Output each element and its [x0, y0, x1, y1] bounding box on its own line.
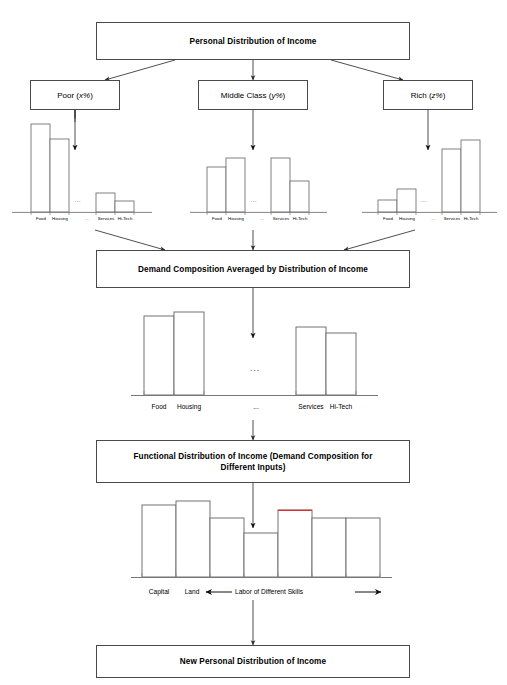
box-new-personal-distribution[interactable]: New Personal Distribution of Income — [96, 645, 410, 678]
averaged-tick-ellipsis: ... — [236, 403, 276, 411]
functional-line-2: Different Inputs) — [221, 463, 286, 472]
box-middle-class[interactable]: Middle Class (y%) — [198, 80, 308, 110]
box-label-bottom: New Personal Distribution of Income — [174, 656, 332, 667]
connector-group-to-chart — [47, 110, 75, 119]
rich-tick-hitech: Hi-Tech — [451, 216, 491, 221]
functional-line-1: Functional Distribution of Income (Deman… — [133, 452, 372, 461]
averaged-tick-housing: Housing — [169, 403, 209, 411]
rich-chart-graphic — [362, 140, 497, 215]
box-personal-distribution-of-income[interactable]: Personal Distribution of Income — [96, 22, 410, 60]
middle-tick-hitech: Hi-Tech — [280, 216, 320, 221]
box-label-rich: Rich (z%) — [407, 90, 450, 101]
averaged-tick-hitech: Hi-Tech — [321, 403, 361, 411]
box-label: Personal Distribution of Income — [184, 36, 323, 47]
connector-top-to-groups — [105, 60, 403, 80]
poor-series-break-ellipsis: ... — [75, 198, 81, 203]
rich-share: z% — [432, 91, 443, 100]
poor-chart-graphic — [12, 124, 152, 215]
box-label-functional: Functional Distribution of Income (Deman… — [127, 451, 378, 473]
box-rich[interactable]: Rich (z%) — [383, 80, 473, 110]
middle-class-share: y% — [271, 91, 282, 100]
box-poor[interactable]: Poor (x%) — [30, 80, 120, 110]
box-functional-distribution[interactable]: Functional Distribution of Income (Deman… — [96, 440, 410, 483]
averaged-chart-graphic — [131, 312, 378, 396]
connector-charts-to-demand — [95, 230, 415, 250]
rich-series-break-ellipsis: ... — [421, 198, 427, 203]
poor-name: Poor — [57, 91, 74, 100]
box-label-middle-class: Middle Class (y%) — [217, 90, 289, 101]
diagram-canvas: Personal Distribution of Income Poor (x%… — [0, 0, 507, 685]
functional-tick-land: Land — [172, 588, 212, 596]
box-demand-composition-averaged[interactable]: Demand Composition Averaged by Distribut… — [96, 250, 410, 288]
functional-chart-graphic — [131, 501, 392, 592]
middle-class-chart-graphic — [190, 158, 327, 215]
averaged-series-break-ellipsis: ... — [250, 365, 260, 373]
middle-series-break-ellipsis: ... — [251, 198, 257, 203]
functional-xlabel-labor: Labor of Different Skills — [235, 588, 303, 596]
poor-tick-hitech: Hi-Tech — [105, 216, 145, 221]
rich-name: Rich — [411, 91, 427, 100]
box-label-poor: Poor (x%) — [53, 90, 97, 101]
poor-share: x% — [79, 91, 90, 100]
box-label-demand: Demand Composition Averaged by Distribut… — [132, 264, 374, 275]
middle-class-name: Middle Class — [221, 91, 267, 100]
